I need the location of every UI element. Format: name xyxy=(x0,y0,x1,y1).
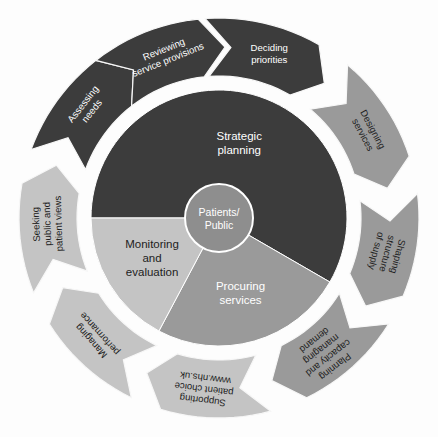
cycle-arrow-supporting-patient-choice[interactable]: Supportingpatient choicewww.nhs.uk xyxy=(147,354,271,418)
hub-circle[interactable]: Patients/Public xyxy=(185,184,253,252)
cycle-arrow-deciding-priorities[interactable]: Decidingpriorities xyxy=(205,18,324,95)
cycle-wheel-svg: DecidingprioritiesDesigningservicesShapi… xyxy=(0,0,438,437)
cycle-arrow-label: Decidingpriorities xyxy=(251,42,288,64)
commissioning-cycle-diagram: DecidingprioritiesDesigningservicesShapi… xyxy=(0,0,438,437)
cycle-arrow-seeking-public-and-patient-views[interactable]: Seekingpublic andpatient views xyxy=(19,165,87,293)
cycle-arrow-label: Supportingpatient choicewww.nhs.uk xyxy=(173,369,236,409)
cycle-arrow-shaping-structure-of-supply[interactable]: Shapingstructureof supply xyxy=(350,194,419,306)
hub-circle-group: Patients/Public xyxy=(185,184,253,252)
